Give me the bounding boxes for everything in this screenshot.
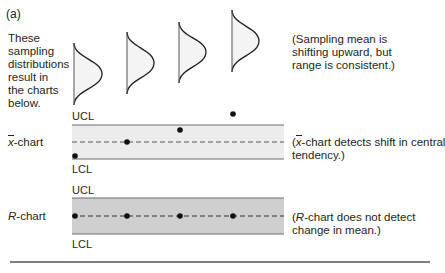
note-text: -chart does not detect bbox=[304, 211, 415, 223]
xbar-note: (x-chart detects shift in central tenden… bbox=[292, 136, 445, 162]
intro-line: result in bbox=[8, 71, 69, 84]
xbar-symbol: x bbox=[8, 136, 14, 148]
intro-line: distributions bbox=[8, 58, 69, 71]
xbar-point-3 bbox=[177, 127, 183, 133]
xbar-lcl-label: LCL bbox=[72, 163, 92, 176]
r-lcl-label: LCL bbox=[72, 238, 92, 251]
intro-line: sampling bbox=[8, 45, 69, 58]
r-note: (R-chart does not detect change in mean.… bbox=[292, 211, 415, 237]
note-line: shifting upward, but bbox=[292, 46, 395, 59]
panel-label: (a) bbox=[6, 8, 21, 21]
note-line: (x-chart detects shift in central bbox=[292, 136, 445, 149]
intro-text: These sampling distributions result in t… bbox=[8, 32, 69, 110]
note-line: range is consistent.) bbox=[292, 59, 395, 72]
note-text: -chart detects shift in central bbox=[302, 136, 445, 148]
distribution-curve-2 bbox=[127, 32, 154, 94]
sampling-distributions bbox=[74, 10, 259, 105]
intro-line: the charts bbox=[8, 84, 69, 97]
note-line: (R-chart does not detect bbox=[292, 211, 415, 224]
r-chart bbox=[72, 198, 284, 234]
xbar-point-1 bbox=[72, 153, 78, 159]
xbar-point-4 bbox=[230, 111, 236, 117]
chart-name-suffix: -chart bbox=[16, 210, 45, 222]
note-line: change in mean.) bbox=[292, 224, 415, 237]
xbar-symbol: x bbox=[296, 136, 302, 148]
distribution-curve-4 bbox=[232, 10, 259, 72]
xbar-chart bbox=[72, 111, 284, 159]
r-point-3 bbox=[177, 213, 183, 219]
xbar-chart-name: x-chart bbox=[8, 136, 43, 149]
r-ucl-label: UCL bbox=[72, 184, 94, 197]
intro-line: below. bbox=[8, 97, 69, 110]
r-point-2 bbox=[124, 213, 130, 219]
intro-line: These bbox=[8, 32, 69, 45]
r-point-4 bbox=[230, 213, 236, 219]
r-symbol: R bbox=[296, 211, 304, 223]
r-chart-name: R-chart bbox=[8, 210, 46, 223]
chart-name-suffix: -chart bbox=[14, 136, 43, 148]
note-line: (Sampling mean is bbox=[292, 33, 395, 46]
note-line: tendency.) bbox=[292, 149, 445, 162]
distribution-note: (Sampling mean is shifting upward, but r… bbox=[292, 33, 395, 72]
xbar-ucl-label: UCL bbox=[72, 110, 94, 123]
xbar-point-2 bbox=[124, 139, 130, 145]
distribution-curve-3 bbox=[179, 22, 206, 83]
distribution-curve-1 bbox=[74, 43, 102, 105]
r-point-1 bbox=[72, 213, 78, 219]
